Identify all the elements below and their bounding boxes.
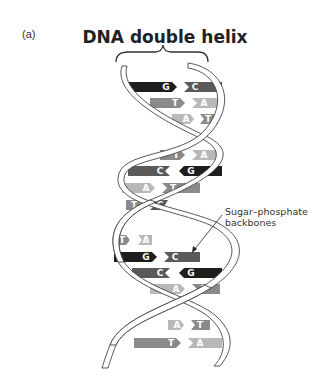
svg-text:A: A <box>201 98 208 108</box>
svg-text:A: A <box>183 114 190 124</box>
base-pair: A T <box>168 320 210 330</box>
svg-text:C: C <box>172 252 179 262</box>
base-pair: T A <box>134 338 222 348</box>
svg-text:C: C <box>157 166 164 176</box>
svg-text:A: A <box>173 284 180 294</box>
svg-text:C: C <box>192 82 199 92</box>
base-pair: C G <box>132 268 222 278</box>
svg-text:A: A <box>143 235 150 245</box>
svg-text:A: A <box>201 150 208 160</box>
base-pair: T A <box>150 98 224 108</box>
svg-text:G: G <box>142 252 149 262</box>
svg-text:T: T <box>168 338 175 348</box>
annotation-line-1: Sugar–phosphate <box>225 206 308 217</box>
svg-text:T: T <box>197 320 204 330</box>
svg-text:T: T <box>172 98 179 108</box>
base-pair: T A <box>116 235 152 245</box>
svg-text:G: G <box>187 166 194 176</box>
annotation-line-2: backbones <box>225 217 308 228</box>
brace-icon <box>116 45 208 62</box>
svg-text:A: A <box>143 183 150 193</box>
svg-text:C: C <box>157 268 164 278</box>
base-pair: G C <box>114 252 200 262</box>
svg-text:A: A <box>174 320 181 330</box>
svg-text:T: T <box>119 235 126 245</box>
svg-text:G: G <box>162 82 169 92</box>
base-pair: G C <box>128 82 222 92</box>
svg-text:G: G <box>187 268 194 278</box>
dna-helix-diagram: G C T A A T T A C G <box>0 0 310 378</box>
backbone-annotation: Sugar–phosphate backbones <box>225 206 308 228</box>
svg-text:A: A <box>197 338 204 348</box>
